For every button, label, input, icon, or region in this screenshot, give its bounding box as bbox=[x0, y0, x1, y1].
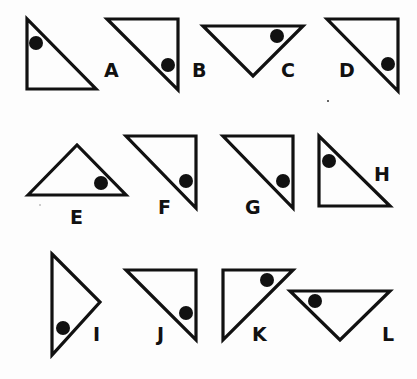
speck bbox=[327, 100, 329, 102]
dot-marker bbox=[94, 176, 108, 190]
triangle-label: K bbox=[252, 323, 268, 345]
dot-marker bbox=[308, 294, 322, 308]
triangle-item-i: I bbox=[52, 254, 100, 355]
triangle-shape bbox=[27, 19, 96, 89]
dot-marker bbox=[179, 306, 193, 320]
triangle-item-h: H bbox=[319, 136, 390, 206]
triangle-label: L bbox=[382, 323, 394, 345]
dot-marker bbox=[381, 57, 395, 71]
dot-marker bbox=[322, 154, 336, 168]
triangle-item-e: E bbox=[28, 145, 126, 228]
triangle-item-f: F bbox=[126, 136, 196, 218]
triangle-label: C bbox=[281, 59, 295, 81]
triangle-item-k: K bbox=[223, 270, 293, 345]
dot-marker bbox=[56, 321, 70, 335]
dot-marker bbox=[276, 174, 290, 188]
triangle-shape bbox=[327, 19, 398, 91]
dot-marker bbox=[161, 58, 175, 72]
dot-marker bbox=[179, 174, 193, 188]
dot-marker bbox=[270, 29, 284, 43]
triangle-shape bbox=[28, 145, 126, 195]
triangle-label: A bbox=[104, 59, 119, 81]
triangle-item-b: B bbox=[107, 19, 206, 90]
triangle-label: B bbox=[192, 59, 206, 81]
triangle-label: E bbox=[70, 206, 83, 228]
triangle-label: H bbox=[374, 163, 390, 185]
triangle-item-j: J bbox=[126, 270, 196, 345]
dot-marker bbox=[29, 36, 43, 50]
triangle-label: J bbox=[155, 323, 164, 345]
triangle-item-g: G bbox=[223, 136, 293, 218]
triangle-item-c: C bbox=[203, 26, 303, 81]
triangle-label: G bbox=[245, 196, 261, 218]
dot-marker bbox=[260, 273, 274, 287]
triangle-item-a: A bbox=[27, 19, 119, 89]
triangle-label: F bbox=[158, 196, 171, 218]
triangle-label: I bbox=[93, 323, 100, 345]
triangle-shape bbox=[290, 291, 390, 340]
triangle-figure: ABCDEFGHIJKL bbox=[0, 0, 417, 379]
triangle-label: D bbox=[339, 59, 355, 81]
triangle-item-d: D bbox=[327, 19, 398, 91]
speck bbox=[39, 204, 40, 205]
triangle-item-l: L bbox=[290, 291, 394, 345]
